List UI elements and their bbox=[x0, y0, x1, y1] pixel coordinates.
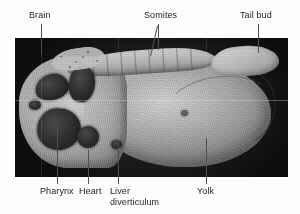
registration-line-vertical bbox=[41, 38, 42, 177]
heart-leader-line bbox=[88, 150, 89, 184]
label-somites: Somites bbox=[144, 10, 177, 21]
brain-leader-line bbox=[41, 24, 42, 54]
vesicle-cavity-3 bbox=[181, 110, 188, 116]
vesicle-cavity-2 bbox=[111, 140, 122, 149]
vesicle-cavity-1 bbox=[29, 100, 41, 110]
label-tail-bud: Tail bud bbox=[240, 10, 272, 21]
yolk-leader-line bbox=[206, 138, 207, 184]
liver-diverticulum-leader-line bbox=[118, 146, 119, 184]
label-pharynx: Pharynx bbox=[40, 186, 74, 197]
tail-bud-leader-line bbox=[258, 24, 259, 53]
label-yolk: Yolk bbox=[197, 186, 214, 197]
figure-container: Brain Somites Tail bud Pharynx Heart Liv… bbox=[0, 0, 300, 214]
embryo-specimen bbox=[15, 44, 288, 172]
pharynx-leader-line bbox=[57, 128, 58, 184]
tail-bud-region bbox=[210, 43, 280, 79]
label-brain: Brain bbox=[29, 10, 51, 21]
registration-line-horizontal bbox=[15, 100, 288, 101]
label-heart: Heart bbox=[79, 186, 102, 197]
label-liver-diverticulum: Liver diverticulum bbox=[110, 186, 159, 207]
embryo-micrograph-panel bbox=[15, 38, 288, 177]
somites-leader-line-a bbox=[158, 24, 159, 50]
